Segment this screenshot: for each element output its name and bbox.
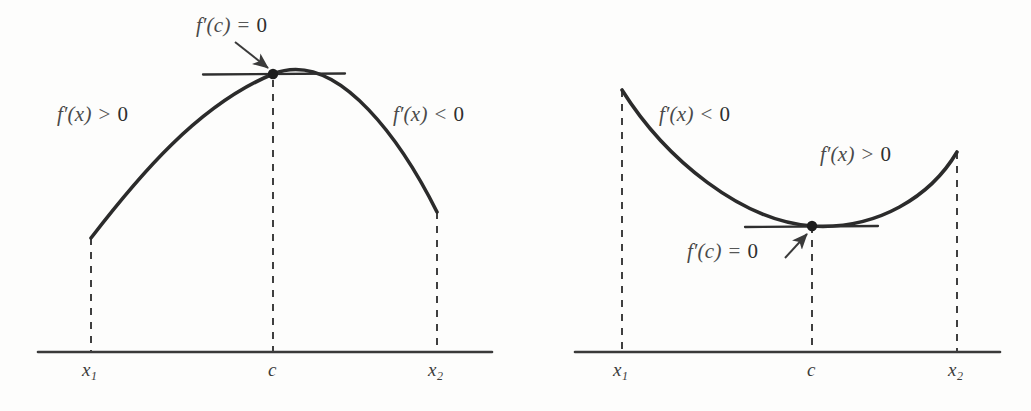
label-op-left-dec: < (434, 102, 448, 126)
label-arg-left-crit: (c) (206, 13, 231, 37)
panel-relative-minimum (575, 90, 1000, 352)
diagram-canvas (0, 0, 1031, 411)
label-right-region-right-panel: f′(x) > 0 (820, 144, 891, 165)
label-arg-left-inc: (x) (67, 102, 92, 126)
label-value-left-dec: 0 (454, 102, 465, 126)
label-value-left-crit: 0 (257, 13, 268, 37)
tick-base-c-left: c (268, 359, 276, 380)
label-op-right-crit: = (728, 239, 742, 263)
tick-sub-x1-right: 1 (622, 369, 628, 383)
tick-base-x1-right: x (613, 359, 621, 380)
curve-relative-maximum (91, 70, 437, 238)
axis-tick-label-x1-right: x1 (613, 360, 627, 379)
label-arg-right-inc: (x) (830, 142, 855, 166)
tick-base-x2-right: x (948, 359, 956, 380)
label-right-region-left-panel: f′(x) < 0 (393, 104, 464, 125)
label-value-left-inc: 0 (118, 102, 129, 126)
tick-base-x2-left: x (428, 359, 436, 380)
tick-sub-x1-left: 1 (91, 369, 97, 383)
label-op-left-inc: > (98, 102, 112, 126)
axis-tick-label-c-right: c (807, 360, 815, 379)
label-value-right-crit: 0 (748, 239, 759, 263)
axis-tick-label-x2-right: x2 (948, 360, 962, 379)
panel-relative-maximum (38, 42, 492, 352)
label-left-region-left-panel: f′(x) > 0 (57, 104, 128, 125)
label-critical-point-left: f′(c) = 0 (196, 15, 267, 36)
axis-tick-label-x2-left: x2 (428, 360, 442, 379)
tick-base-x1-left: x (82, 359, 90, 380)
annotation-arrow-right (785, 234, 807, 258)
label-arg-right-crit: (c) (697, 239, 722, 263)
tick-sub-x2-right: 2 (957, 369, 963, 383)
figure-container: f′(c) = 0 f′(x) > 0 f′(x) < 0 x1 c x2 f′… (0, 0, 1031, 411)
label-left-region-right-panel: f′(x) < 0 (659, 104, 730, 125)
tick-sub-x2-left: 2 (437, 369, 443, 383)
label-op-left-crit: = (237, 13, 251, 37)
label-op-right-inc: > (861, 142, 875, 166)
axis-tick-label-c-left: c (268, 360, 276, 379)
label-arg-left-dec: (x) (403, 102, 428, 126)
label-op-right-dec: < (700, 102, 714, 126)
annotation-arrow-left (235, 42, 268, 68)
axis-tick-label-x1-left: x1 (82, 360, 96, 379)
label-value-right-inc: 0 (881, 142, 892, 166)
label-arg-right-dec: (x) (669, 102, 694, 126)
label-critical-point-right: f′(c) = 0 (687, 241, 758, 262)
critical-point-dot-left (268, 69, 278, 79)
critical-point-dot-right (807, 221, 817, 231)
tick-base-c-right: c (807, 359, 815, 380)
label-value-right-dec: 0 (720, 102, 731, 126)
